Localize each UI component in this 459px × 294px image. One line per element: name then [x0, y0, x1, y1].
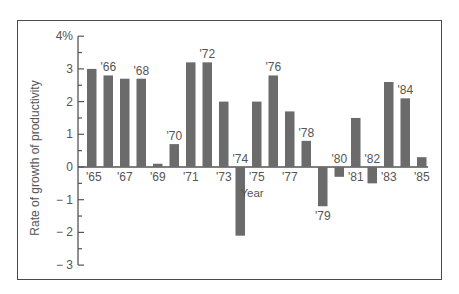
- bar: [170, 144, 180, 167]
- bar: [368, 167, 378, 183]
- y-tick-label: 1: [66, 127, 73, 141]
- bar: [120, 79, 130, 167]
- bar: [401, 98, 411, 167]
- x-category-label: '65: [86, 170, 102, 184]
- y-tick-label: 2: [66, 95, 73, 109]
- bar: [335, 167, 345, 177]
- x-category-label: '69: [150, 170, 166, 184]
- x-category-label: '79: [315, 209, 331, 223]
- bar: [384, 82, 394, 167]
- x-category-label: '73: [216, 170, 232, 184]
- y-tick-label: 4%: [56, 29, 74, 43]
- bar: [203, 62, 213, 167]
- bar-chart: 4%3210− 1− 2− 3'65'66'67'68'69'70'71'72'…: [0, 0, 459, 294]
- x-category-label: '76: [265, 60, 281, 74]
- x-category-label: '71: [183, 170, 199, 184]
- x-category-label: '74: [232, 152, 248, 166]
- x-category-label: '82: [364, 152, 380, 166]
- bar: [351, 118, 361, 167]
- x-axis-label: Year: [240, 187, 263, 199]
- bar: [269, 75, 279, 167]
- x-category-label: '78: [298, 126, 314, 140]
- bar: [219, 102, 229, 167]
- x-category-label: '83: [381, 170, 397, 184]
- x-category-label: '75: [249, 170, 265, 184]
- x-category-label: '67: [117, 170, 133, 184]
- y-tick-label: − 2: [56, 225, 73, 239]
- bar: [104, 75, 114, 167]
- bar: [87, 69, 97, 167]
- bar: [417, 157, 427, 167]
- bar: [137, 79, 147, 167]
- x-category-label: '80: [331, 152, 347, 166]
- x-category-label: '84: [397, 83, 413, 97]
- y-tick-label: − 3: [56, 258, 73, 272]
- bar: [153, 164, 163, 167]
- x-category-label: '72: [199, 47, 215, 61]
- bar: [302, 141, 312, 167]
- y-tick-label: 3: [66, 62, 73, 76]
- x-category-label: '81: [348, 170, 364, 184]
- x-category-label: '70: [166, 129, 182, 143]
- y-tick-label: 0: [66, 160, 73, 174]
- bar: [186, 62, 196, 167]
- bar: [252, 102, 262, 167]
- x-category-label: '77: [282, 170, 298, 184]
- bar: [236, 167, 246, 236]
- bar: [318, 167, 328, 206]
- x-category-label: '66: [100, 60, 116, 74]
- y-tick-label: − 1: [56, 193, 73, 207]
- x-category-label: '85: [414, 170, 430, 184]
- x-category-label: '68: [133, 64, 149, 78]
- bar: [285, 111, 295, 167]
